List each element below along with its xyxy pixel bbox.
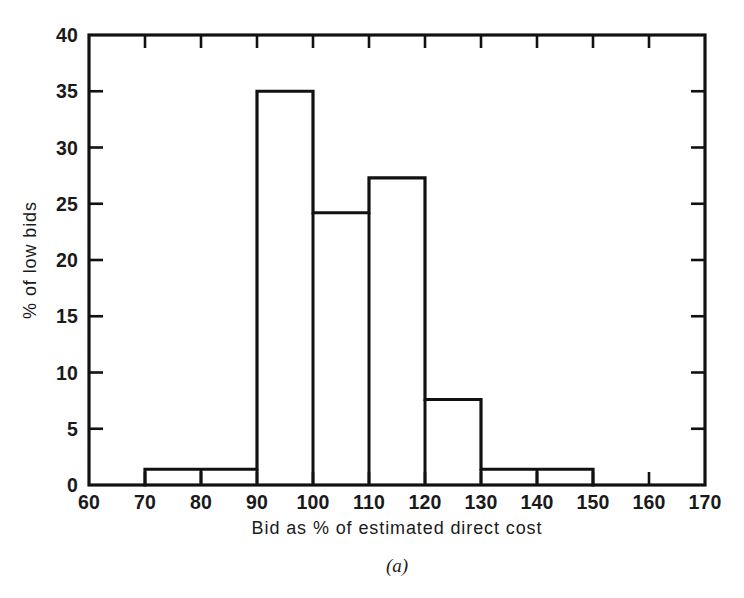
x-tick-label-130: 130 — [464, 491, 497, 513]
x-tick-label-170: 170 — [688, 491, 721, 513]
plot-frame — [89, 35, 705, 485]
y-tick-label-15: 15 — [56, 305, 78, 327]
y-axis-tick-labels: 0510152025303540 — [56, 24, 78, 496]
y-axis-title: % of low bids — [20, 201, 40, 319]
x-tick-label-100: 100 — [296, 491, 329, 513]
x-tick-label-110: 110 — [353, 491, 385, 513]
histogram-bin-dividers — [201, 213, 537, 485]
x-tick-label-80: 80 — [190, 491, 212, 513]
x-axis-top-ticks — [145, 35, 649, 48]
x-axis-tick-labels: 60708090100110120130140150160170 — [78, 491, 722, 513]
x-tick-label-150: 150 — [576, 491, 609, 513]
y-tick-label-35: 35 — [56, 80, 78, 102]
y-tick-label-30: 30 — [56, 137, 78, 159]
y-tick-label-25: 25 — [56, 193, 78, 215]
y-tick-label-20: 20 — [56, 249, 78, 271]
y-axis-left-ticks — [89, 91, 103, 429]
figure-caption: (a) — [386, 555, 408, 577]
y-tick-label-10: 10 — [56, 362, 78, 384]
x-tick-label-140: 140 — [520, 491, 553, 513]
x-axis-title: Bid as % of estimated direct cost — [252, 518, 543, 538]
chart-canvas: 60708090100110120130140150160170 0510152… — [0, 0, 744, 598]
y-tick-label-40: 40 — [56, 24, 78, 46]
x-tick-label-60: 60 — [78, 491, 100, 513]
x-tick-label-90: 90 — [246, 491, 268, 513]
histogram-figure: 60708090100110120130140150160170 0510152… — [0, 0, 744, 598]
x-tick-label-160: 160 — [632, 491, 665, 513]
y-axis-right-ticks — [691, 91, 705, 429]
y-tick-label-5: 5 — [67, 418, 78, 440]
x-tick-label-120: 120 — [408, 491, 441, 513]
y-tick-label-0: 0 — [67, 474, 78, 496]
x-tick-label-70: 70 — [134, 491, 156, 513]
x-axis-bottom-ticks — [145, 472, 649, 485]
